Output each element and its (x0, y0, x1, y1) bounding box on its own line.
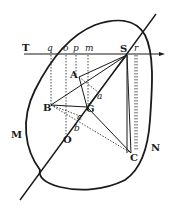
label-c: c (77, 112, 82, 122)
label-p: p (73, 43, 79, 53)
label-O: O (63, 134, 72, 145)
label-q: q (47, 43, 53, 53)
label-B: B (43, 102, 51, 113)
label-r: r (134, 43, 139, 53)
arrow-head-icon (159, 52, 165, 56)
diagram-canvas: T q o p m S r A a B G c b O C M N (0, 0, 170, 214)
label-A: A (69, 69, 78, 80)
label-o-top: o (63, 43, 69, 53)
label-M: M (11, 129, 22, 140)
label-T: T (22, 42, 30, 53)
label-C: C (130, 152, 138, 163)
label-S: S (120, 43, 127, 54)
label-m: m (85, 43, 94, 53)
label-b: b (74, 123, 80, 133)
label-a: a (97, 91, 102, 101)
label-G: G (86, 103, 95, 114)
label-N: N (151, 142, 160, 153)
